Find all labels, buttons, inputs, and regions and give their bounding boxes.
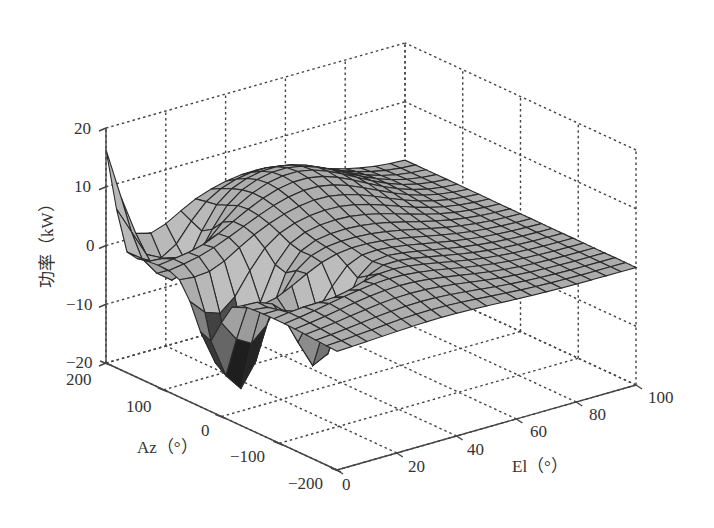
el-tick-label: 80 — [589, 405, 606, 424]
el-tick — [576, 402, 582, 406]
el-tick — [636, 385, 642, 389]
z-tick — [99, 187, 106, 190]
z-tick — [99, 246, 106, 249]
surface-chart: 20 10 0 −10 −20 200 100 0 −100 −200 0 20… — [0, 0, 714, 528]
z-axis-title: 功率（kW） — [38, 195, 57, 288]
el-tick-label: 20 — [408, 457, 425, 476]
el-tick — [457, 436, 463, 440]
az-tick-label: 0 — [201, 421, 210, 440]
z-tick-label: 10 — [74, 177, 91, 196]
z-tick-label: 20 — [74, 119, 91, 138]
side-wall-grid-line — [106, 43, 405, 128]
back-wall-grid-line — [405, 43, 636, 150]
z-tick — [99, 304, 106, 307]
z-tick — [99, 128, 106, 131]
az-axis-title: Az（°） — [137, 438, 198, 457]
el-axis-line — [337, 385, 636, 470]
az-tick-label: −200 — [288, 474, 323, 493]
surface-mesh — [106, 150, 636, 389]
el-axis-title: El（°） — [512, 457, 568, 476]
floor-grid-line — [222, 332, 521, 417]
az-tick-label: 200 — [66, 370, 92, 389]
z-tick-label: 0 — [86, 236, 95, 255]
z-tick-label: −10 — [66, 295, 93, 314]
el-tick-label: 60 — [530, 422, 547, 441]
plot-area: 20 10 0 −10 −20 200 100 0 −100 −200 0 20… — [0, 0, 714, 528]
az-tick-label: −100 — [230, 447, 265, 466]
az-tick-label: 100 — [126, 397, 152, 416]
el-tick-label: 40 — [467, 440, 484, 459]
el-tick — [397, 453, 403, 457]
el-tick — [337, 470, 343, 474]
el-tick-label: 0 — [342, 475, 351, 494]
el-tick — [516, 419, 522, 423]
el-tick-label: 100 — [648, 388, 674, 407]
